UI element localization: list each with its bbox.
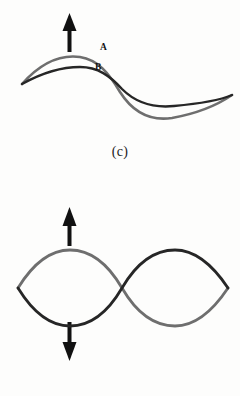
panel-c-graphic <box>0 0 240 198</box>
curve-label-b-panel-c: B <box>95 62 102 72</box>
panel-caption-c: (c) <box>0 144 240 160</box>
panel-c: A B (c) <box>0 0 240 198</box>
wave-curve-b <box>18 250 228 326</box>
curve-label-a-panel-c: A <box>100 42 107 52</box>
up-arrow-icon <box>63 207 77 246</box>
down-arrow-icon <box>63 322 77 361</box>
wave-curve-a <box>22 57 232 119</box>
figure-page: A B (c) A B (d) <box>0 0 240 396</box>
up-arrow-icon <box>63 13 77 52</box>
panel-d: A B (d) <box>0 198 240 396</box>
panel-d-graphic <box>0 198 240 396</box>
